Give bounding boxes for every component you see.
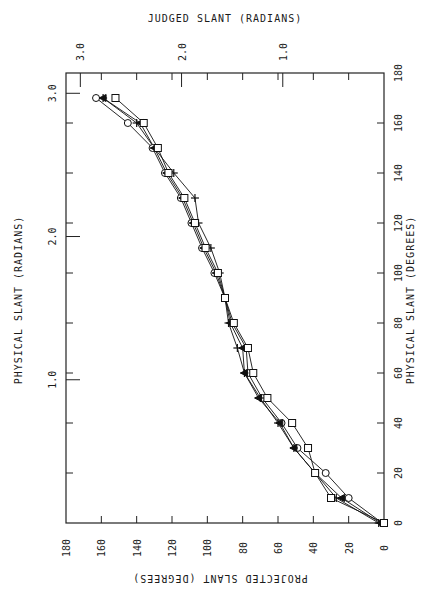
circle-marker-icon bbox=[322, 470, 329, 477]
bottom-tick-label: 0 bbox=[379, 545, 390, 551]
plus-marker-icon bbox=[133, 119, 141, 127]
top-tick-label: 1.0 bbox=[278, 43, 289, 61]
bottom-tick-label: 140 bbox=[132, 539, 143, 557]
square-marker-icon bbox=[222, 295, 229, 302]
right-tick-label: 120 bbox=[393, 214, 404, 232]
square-marker-icon bbox=[191, 220, 198, 227]
square-marker-icon bbox=[244, 345, 251, 352]
left-tick-label: 2.0 bbox=[47, 227, 58, 245]
square-marker-icon bbox=[165, 170, 172, 177]
circle-marker-icon bbox=[124, 120, 131, 127]
square-marker-icon bbox=[312, 470, 319, 477]
right-tick-label: 160 bbox=[393, 114, 404, 132]
left-tick-label: 3.0 bbox=[47, 84, 58, 102]
series-line-plus bbox=[103, 98, 379, 523]
bottom-tick-label: 40 bbox=[308, 542, 319, 554]
right-tick-label: 20 bbox=[393, 467, 404, 479]
square-marker-icon bbox=[214, 270, 221, 277]
bottom-tick-label: 100 bbox=[202, 539, 213, 557]
top-tick-label: 3.0 bbox=[75, 43, 86, 61]
right-tick-label: 140 bbox=[393, 164, 404, 182]
top-tick-label: 2.0 bbox=[177, 43, 188, 61]
square-marker-icon bbox=[140, 120, 147, 127]
bottom-tick-label: 120 bbox=[167, 539, 178, 557]
square-marker-icon bbox=[250, 370, 257, 377]
square-marker-icon bbox=[181, 195, 188, 202]
series-line-circle bbox=[96, 98, 382, 523]
square-marker-icon bbox=[154, 145, 161, 152]
right-tick-label: 0 bbox=[393, 520, 404, 526]
square-marker-icon bbox=[112, 95, 119, 102]
top-axis-title: JUDGED SLANT (RADIANS) bbox=[148, 13, 302, 24]
right-tick-label: 80 bbox=[393, 317, 404, 329]
bottom-tick-label: 80 bbox=[238, 542, 249, 554]
bottom-tick-label: 160 bbox=[96, 539, 107, 557]
bottom-tick-label: 60 bbox=[273, 542, 284, 554]
bottom-axis-title: PROJECTED SLANT (DEGREES) bbox=[132, 573, 308, 584]
left-axis-title: PHYSICAL SLANT (RADIANS) bbox=[13, 216, 24, 385]
series-markers bbox=[93, 94, 388, 527]
square-marker-icon bbox=[328, 495, 335, 502]
square-marker-icon bbox=[202, 245, 209, 252]
square-marker-icon bbox=[305, 445, 312, 452]
right-tick-label: 60 bbox=[393, 367, 404, 379]
bottom-tick-label: 180 bbox=[61, 539, 72, 557]
square-marker-icon bbox=[230, 320, 237, 327]
right-tick-label: 40 bbox=[393, 417, 404, 429]
series-line-square bbox=[115, 98, 384, 523]
right-tick-label: 180 bbox=[393, 64, 404, 82]
square-marker-icon bbox=[289, 420, 296, 427]
right-axis-title: PHYSICAL SLANT (DEGREES) bbox=[405, 216, 416, 385]
slant-chart: 1801601401201008060402000204060801001201… bbox=[0, 0, 429, 592]
bottom-tick-label: 20 bbox=[344, 542, 355, 554]
square-marker-icon bbox=[264, 395, 271, 402]
square-marker-icon bbox=[381, 520, 388, 527]
circle-marker-icon bbox=[345, 495, 352, 502]
series-lines bbox=[96, 98, 384, 523]
plus-marker-icon bbox=[233, 344, 241, 352]
right-tick-label: 100 bbox=[393, 264, 404, 282]
series-line-triangle bbox=[103, 98, 380, 523]
left-tick-label: 1.0 bbox=[47, 371, 58, 389]
